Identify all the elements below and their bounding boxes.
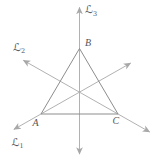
line-label-l2: ℒ2 bbox=[13, 41, 25, 56]
line-label-l1-subscript: 1 bbox=[19, 142, 23, 150]
symmetry-line-l2 bbox=[24, 60, 150, 131]
line-label-l3: ℒ3 bbox=[85, 3, 97, 18]
line-label-l3-subscript: 3 bbox=[93, 10, 97, 18]
line-label-l2-subscript: 2 bbox=[21, 47, 25, 55]
line-label-l1: ℒ1 bbox=[12, 136, 24, 151]
vertex-label-b: B bbox=[85, 37, 91, 48]
line-label-l2-letter: ℒ bbox=[13, 41, 21, 54]
figure-canvas: A B C ℒ1 ℒ2 ℒ3 bbox=[0, 0, 161, 161]
geometry-figure: A B C ℒ1 ℒ2 ℒ3 bbox=[0, 0, 161, 161]
vertex-label-c: C bbox=[113, 115, 120, 126]
vertex-label-a: A bbox=[32, 117, 40, 128]
line-label-l1-letter: ℒ bbox=[12, 136, 20, 149]
line-label-l3-letter: ℒ bbox=[85, 3, 93, 16]
